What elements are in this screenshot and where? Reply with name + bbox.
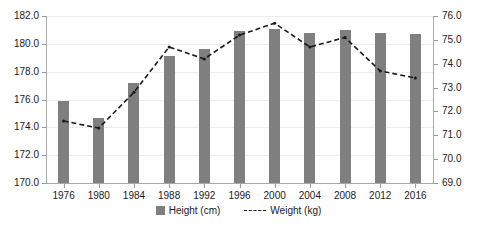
weight-data-point: [168, 46, 171, 49]
left-axis-tick-mark: [42, 183, 46, 184]
x-axis-tick-label: 2016: [395, 191, 435, 201]
right-axis-tick-mark: [434, 40, 438, 41]
right-axis-tick-mark: [434, 64, 438, 65]
x-axis-tick-label: 1988: [149, 191, 189, 201]
left-axis-tick-label: 182.0: [14, 11, 39, 21]
x-axis-tick-mark: [169, 184, 170, 188]
right-axis-tick-label: 76.0: [442, 11, 461, 21]
left-axis-tick-mark: [42, 100, 46, 101]
legend-item-weight: Weight (kg): [244, 205, 321, 216]
right-axis-tick-mark: [434, 159, 438, 160]
left-axis-tick-label: 176.0: [14, 95, 39, 105]
x-axis-tick-label: 2012: [360, 191, 400, 201]
x-axis-tick-label: 1996: [220, 191, 260, 201]
legend-dashed-line-icon: [244, 210, 266, 211]
chart-legend: Height (cm) Weight (kg): [0, 205, 477, 216]
right-axis-tick-label: 71.0: [442, 130, 461, 140]
bar: [93, 118, 104, 183]
x-axis-tick-mark: [380, 184, 381, 188]
left-axis-line: [46, 16, 47, 184]
bar: [375, 33, 386, 183]
right-axis-tick-mark: [434, 88, 438, 89]
x-axis-tick-label: 1980: [79, 191, 119, 201]
bar: [304, 33, 315, 183]
x-axis-tick-label: 1976: [44, 191, 84, 201]
x-axis-tick-label: 1984: [114, 191, 154, 201]
x-axis-tick-mark: [240, 184, 241, 188]
x-axis-tick-mark: [64, 184, 65, 188]
left-axis-tick-label: 174.0: [14, 122, 39, 132]
right-axis-tick-mark: [434, 135, 438, 136]
x-axis-tick-mark: [310, 184, 311, 188]
x-axis-tick-label: 2004: [290, 191, 330, 201]
legend-square-icon: [156, 206, 165, 215]
gridline: [46, 16, 433, 17]
x-axis-tick-mark: [134, 184, 135, 188]
legend-label-height: Height (cm): [169, 205, 221, 216]
weight-data-point: [273, 22, 276, 25]
left-axis-tick-mark: [42, 44, 46, 45]
right-axis-tick-mark: [434, 16, 438, 17]
x-axis-tick-label: 2000: [255, 191, 295, 201]
x-axis-tick-mark: [204, 184, 205, 188]
left-axis-tick-mark: [42, 16, 46, 17]
right-axis-tick-label: 73.0: [442, 83, 461, 93]
x-axis-tick-mark: [415, 184, 416, 188]
right-axis-tick-mark: [434, 111, 438, 112]
left-axis-tick-label: 180.0: [14, 39, 39, 49]
legend-label-weight: Weight (kg): [270, 205, 321, 216]
bar: [234, 31, 245, 183]
left-axis-tick-label: 170.0: [14, 178, 39, 188]
bar: [410, 34, 421, 183]
x-axis-tick-label: 1992: [184, 191, 224, 201]
right-axis-tick-label: 69.0: [442, 178, 461, 188]
right-axis-tick-label: 74.0: [442, 59, 461, 69]
bar: [58, 101, 69, 183]
bar: [128, 83, 139, 183]
left-axis-tick-label: 172.0: [14, 150, 39, 160]
left-axis-tick-mark: [42, 155, 46, 156]
x-axis-tick-mark: [275, 184, 276, 188]
left-axis-tick-mark: [42, 72, 46, 73]
left-axis-tick-mark: [42, 127, 46, 128]
left-axis-tick-label: 178.0: [14, 67, 39, 77]
x-axis-tick-label: 2008: [325, 191, 365, 201]
right-axis-tick-label: 72.0: [442, 106, 461, 116]
x-axis-tick-mark: [99, 184, 100, 188]
right-axis-tick-mark: [434, 183, 438, 184]
bar: [340, 30, 351, 183]
right-axis-tick-label: 75.0: [442, 35, 461, 45]
bar: [199, 49, 210, 183]
legend-item-height: Height (cm): [156, 205, 221, 216]
x-axis-tick-mark: [345, 184, 346, 188]
right-axis-tick-label: 70.0: [442, 154, 461, 164]
dual-axis-chart: 170.0172.0174.0176.0178.0180.0182.0 69.0…: [0, 0, 477, 226]
bar: [164, 56, 175, 183]
bar: [269, 29, 280, 183]
